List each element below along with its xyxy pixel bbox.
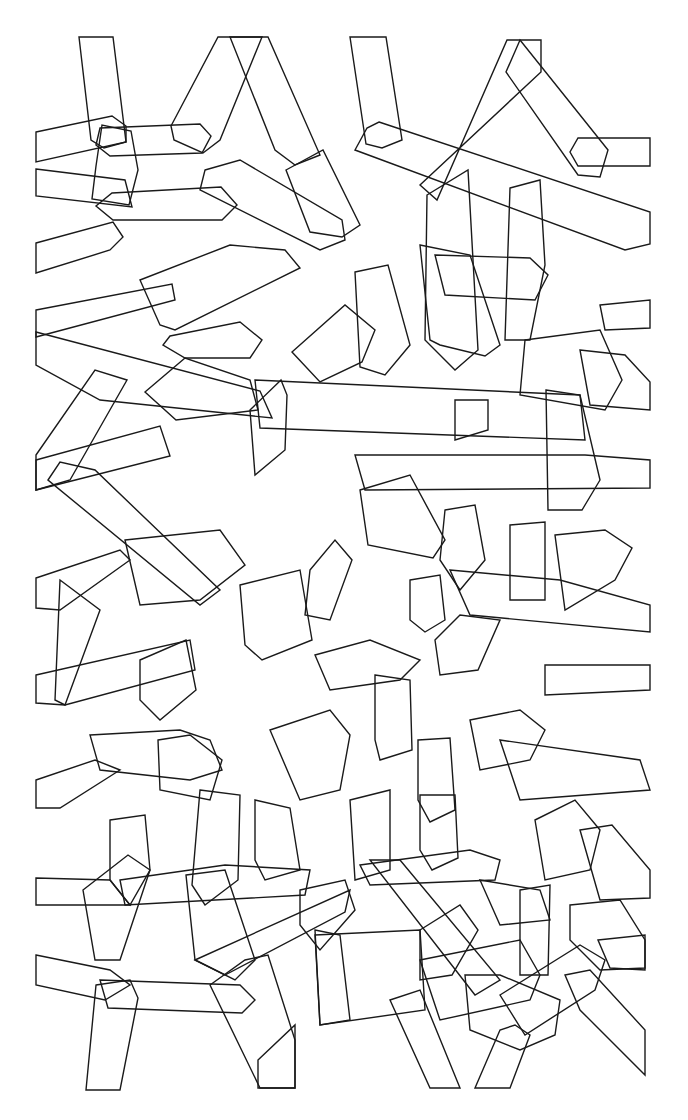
pattern-canvas: [0, 0, 688, 1120]
geometric-pattern-figure: [0, 0, 688, 1120]
background: [0, 0, 688, 1120]
